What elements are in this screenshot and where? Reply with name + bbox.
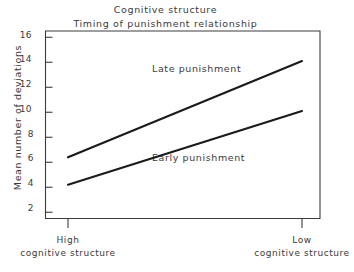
series-line-late-punishment	[68, 61, 302, 157]
plot-frame	[46, 31, 321, 219]
y-axis-ticks	[46, 37, 53, 212]
x-axis-ticks	[68, 219, 302, 229]
data-lines	[68, 61, 302, 185]
series-line-early-punishment	[68, 111, 302, 185]
